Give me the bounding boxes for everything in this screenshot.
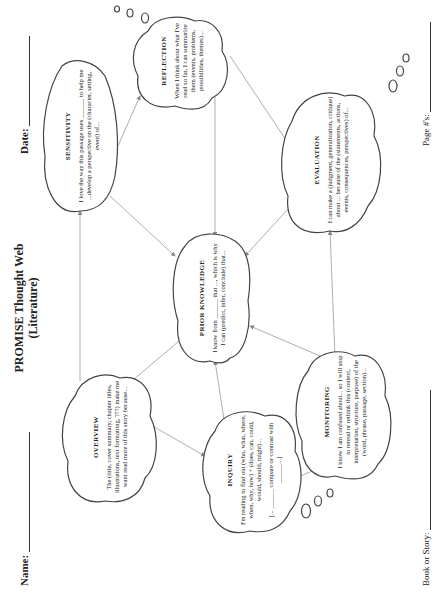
- book-line[interactable]: [420, 390, 431, 530]
- prior-knowledge-heading: PRIOR KNOWLEDGE: [198, 260, 206, 336]
- sensitivity-prompt: I love the way this passage uses ______ …: [77, 66, 101, 206]
- inquiry-compare-prompt: [... ______ compare or contrast with ___…: [267, 414, 283, 526]
- prior-knowledge-prompt: I know from ______ that ..., which is wh…: [211, 242, 227, 354]
- pages-field[interactable]: Page #'s:: [420, 22, 431, 146]
- pages-label: Page #'s:: [421, 114, 431, 146]
- cloud-sensitivity-text: SENSITIVITY I love the way this passage …: [50, 66, 115, 206]
- overview-prompt: The (title, cover summary, chapter title…: [105, 378, 129, 496]
- inquiry-heading: INQUIRY: [226, 454, 234, 487]
- monitoring-heading: MONITORING: [323, 386, 331, 437]
- pages-line[interactable]: [420, 22, 431, 112]
- book-field[interactable]: Book or Story:: [420, 390, 431, 586]
- cloud-monitoring-text: MONITORING I know I am confused about...…: [305, 353, 385, 471]
- cloud-overview-text: OVERVIEW The (title, cover summary, chap…: [70, 378, 150, 496]
- reflection-heading: REFLECTION: [160, 36, 168, 85]
- sensitivity-heading: SENSITIVITY: [64, 112, 72, 160]
- cloud-prior-knowledge-text: PRIOR KNOWLEDGE I know from ______ that …: [180, 242, 245, 354]
- evaluation-heading: EVALUATION: [313, 135, 321, 184]
- evaluation-prompt: I can make a (judgment, generalization, …: [326, 96, 350, 224]
- reflection-prompt: When I think about what I've read so far…: [173, 21, 205, 101]
- cloud-evaluation-text: EVALUATION I can make a (judgment, gener…: [290, 96, 372, 224]
- cloud-inquiry-text: INQUIRY I'm reading to find out (who, wh…: [212, 414, 297, 526]
- book-label: Book or Story:: [421, 532, 431, 586]
- monitoring-prompt: I know I am confused about... so I will …: [336, 353, 368, 471]
- worksheet-page: Name: PROMISE Thought Web (Literature) D…: [0, 0, 442, 616]
- overview-heading: OVERVIEW: [92, 416, 100, 458]
- cloud-reflection-text: REFLECTION When I think about what I've …: [140, 21, 225, 101]
- inquiry-prompt: I'm reading to find out (who, what, wher…: [239, 414, 263, 526]
